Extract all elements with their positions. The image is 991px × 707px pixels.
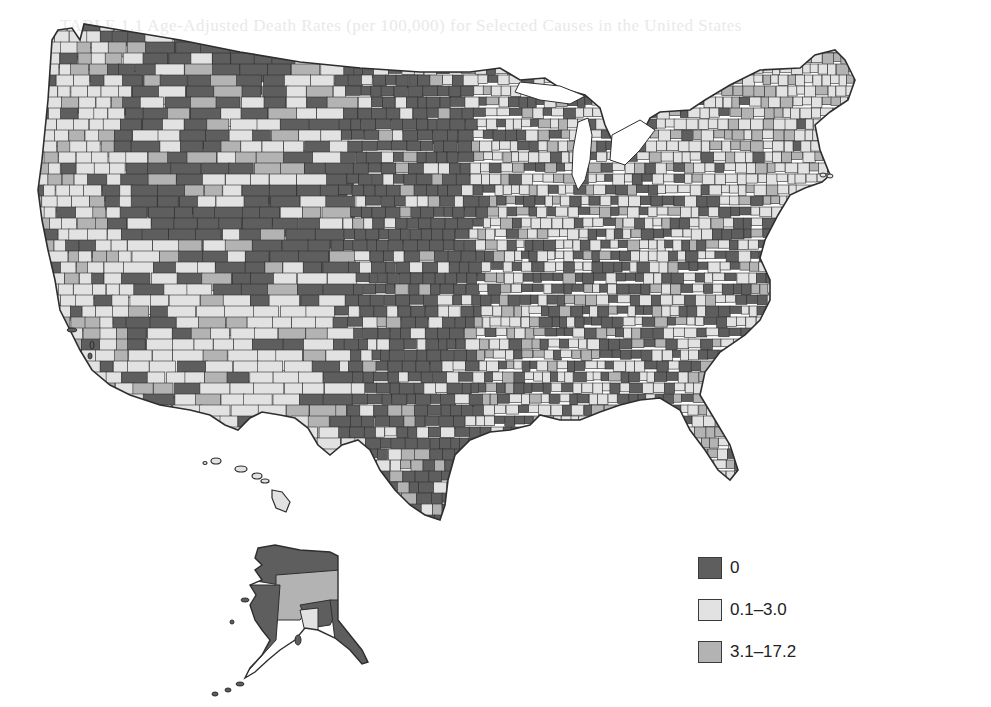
county [692, 416, 704, 427]
county [78, 405, 94, 417]
county [740, 526, 753, 537]
county [843, 449, 854, 458]
county [811, 317, 821, 328]
county [241, 427, 264, 454]
county [546, 42, 556, 52]
county [716, 405, 724, 414]
county [672, 493, 681, 504]
county [353, 218, 364, 230]
county [829, 273, 837, 285]
county [104, 449, 120, 460]
county [721, 526, 730, 536]
county [668, 53, 680, 60]
county [632, 339, 644, 348]
county [481, 163, 490, 172]
county [486, 229, 495, 240]
county [79, 108, 95, 120]
county [800, 405, 811, 416]
county [806, 196, 816, 207]
county [551, 383, 562, 391]
county [666, 185, 678, 193]
county [414, 449, 429, 460]
county [485, 108, 497, 116]
county [801, 141, 811, 152]
county [153, 438, 183, 460]
county [709, 42, 717, 51]
county [767, 163, 775, 172]
county [662, 460, 671, 470]
county [508, 504, 516, 512]
county [793, 97, 803, 106]
county [852, 306, 860, 315]
county [730, 306, 741, 314]
county [486, 240, 498, 249]
county [605, 174, 613, 181]
county [708, 119, 718, 129]
county [381, 196, 395, 208]
county [776, 383, 788, 391]
county [88, 504, 104, 522]
county [669, 251, 678, 261]
county [209, 493, 229, 519]
county [636, 427, 647, 435]
county [639, 64, 648, 76]
county [508, 97, 519, 107]
county [736, 317, 745, 326]
county [699, 350, 708, 359]
county [717, 449, 727, 460]
county [764, 108, 774, 119]
county [744, 130, 752, 140]
county [641, 196, 651, 205]
county [573, 240, 581, 251]
county [440, 416, 454, 427]
county [465, 97, 479, 109]
county [349, 361, 363, 372]
county [653, 97, 663, 106]
county [373, 218, 384, 230]
county [628, 493, 640, 501]
county [671, 284, 681, 295]
county [253, 504, 277, 530]
county [671, 229, 683, 237]
county [408, 427, 417, 437]
county [701, 185, 709, 195]
county [492, 262, 504, 269]
county [46, 339, 64, 356]
county [860, 515, 869, 523]
county [588, 174, 596, 183]
county [360, 306, 374, 318]
county [290, 427, 317, 453]
county [665, 64, 672, 76]
county [655, 339, 666, 347]
county [596, 460, 606, 469]
county [543, 174, 554, 182]
county [298, 515, 322, 539]
county [727, 460, 735, 469]
county [473, 526, 485, 533]
county [570, 394, 578, 405]
county [518, 405, 528, 413]
county [821, 504, 832, 512]
county [781, 97, 793, 108]
county [462, 383, 471, 394]
county [230, 438, 251, 466]
county [653, 471, 661, 481]
legend-item-high: 3.1–17.2 [698, 641, 796, 663]
county [658, 240, 666, 252]
county [443, 229, 455, 241]
county [94, 108, 108, 120]
county [703, 86, 714, 96]
county [449, 20, 460, 31]
county [848, 405, 857, 416]
county [514, 526, 521, 536]
county [454, 350, 467, 362]
county [619, 207, 627, 215]
county [550, 460, 558, 471]
county [618, 20, 626, 31]
county [419, 251, 434, 260]
county [374, 405, 388, 418]
county [573, 251, 583, 259]
county [801, 526, 810, 534]
county [676, 526, 687, 535]
county [737, 174, 746, 185]
